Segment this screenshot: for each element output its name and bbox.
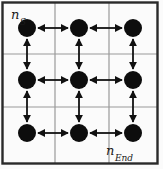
start-node-label-subscript: S bbox=[20, 17, 26, 27]
node-n21[interactable] bbox=[70, 124, 88, 142]
node-n12[interactable] bbox=[124, 71, 142, 89]
end-node-label: nEnd bbox=[106, 142, 133, 161]
end-node-label-subscript: End bbox=[115, 153, 133, 163]
end-node-label-base: n bbox=[106, 143, 114, 158]
node-n20[interactable] bbox=[18, 124, 36, 142]
graph-nodes bbox=[18, 19, 142, 142]
node-n10[interactable] bbox=[18, 71, 36, 89]
node-n22[interactable] bbox=[124, 124, 142, 142]
node-n11[interactable] bbox=[70, 71, 88, 89]
node-n02[interactable] bbox=[124, 19, 142, 37]
start-node-label-base: n bbox=[11, 7, 19, 22]
start-node-label: nS bbox=[11, 6, 26, 25]
lattice-graph-figure: nS nEnd bbox=[0, 0, 163, 169]
node-n01[interactable] bbox=[70, 19, 88, 37]
